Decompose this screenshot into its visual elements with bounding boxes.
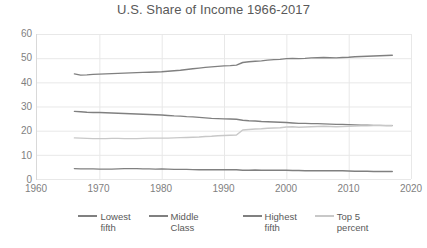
y-axis-tick-50: 50	[2, 53, 32, 63]
legend-item-3[interactable]: Top 5percent	[315, 211, 369, 233]
y-axis-tick-40: 40	[2, 78, 32, 88]
y-axis-tick-20: 20	[2, 126, 32, 136]
legend-label: Highestfifth	[265, 211, 297, 233]
chart-container: U.S. Share of Income 1966-2017 010203040…	[0, 0, 427, 248]
x-axis-tick-2010: 2010	[329, 183, 369, 195]
x-axis-tick-1980: 1980	[141, 183, 181, 195]
legend-label: Top 5percent	[337, 211, 369, 233]
series-lines	[37, 34, 411, 179]
x-axis-tick-2000: 2000	[266, 183, 306, 195]
y-axis-tick-60: 60	[2, 29, 32, 39]
legend-label: Middle Class	[171, 211, 225, 233]
legend-label: Lowestfifth	[100, 211, 130, 233]
chart-legend: LowestfifthMiddle ClassHighestfifthTop 5…	[36, 211, 411, 245]
y-axis-tick-30: 30	[2, 102, 32, 112]
legend-item-2[interactable]: Highestfifth	[243, 211, 297, 233]
legend-item-1[interactable]: Middle Class	[149, 211, 225, 233]
chart-title: U.S. Share of Income 1966-2017	[0, 2, 427, 17]
legend-swatch-icon	[78, 215, 97, 217]
x-axis-tick-1970: 1970	[79, 183, 119, 195]
x-axis-tick-2020: 2020	[391, 183, 427, 195]
x-axis-tick-1960: 1960	[16, 183, 56, 195]
plot-area	[36, 34, 411, 180]
legend-swatch-icon	[149, 215, 168, 217]
x-axis-tick-labels: 1960197019801990200020102020	[36, 183, 411, 197]
legend-swatch-icon	[243, 215, 262, 217]
y-axis-tick-10: 10	[2, 151, 32, 161]
legend-swatch-icon	[315, 215, 334, 217]
legend-item-0[interactable]: Lowestfifth	[78, 211, 130, 233]
x-axis-tick-1990: 1990	[204, 183, 244, 195]
y-axis-tick-labels: 0102030405060	[0, 34, 32, 180]
